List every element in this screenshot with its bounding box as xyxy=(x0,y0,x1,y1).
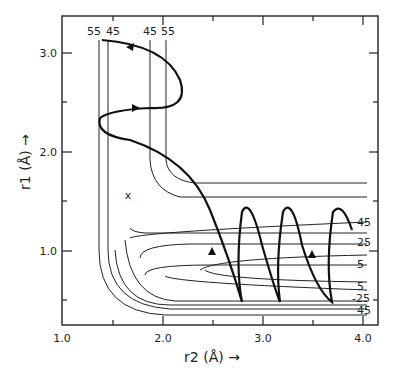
svg-text:1.0: 1.0 xyxy=(40,245,58,258)
svg-text:45: 45 xyxy=(357,304,371,317)
saddle-marker: x xyxy=(125,189,132,202)
svg-text:2.0: 2.0 xyxy=(40,146,58,159)
plot-frame xyxy=(62,16,378,325)
svg-text:45: 45 xyxy=(106,25,120,38)
x-axis-label: r2 (Å) → xyxy=(184,349,240,365)
svg-text:45: 45 xyxy=(143,25,157,38)
tick-labels: 1.0 2.0 3.0 4.0 1.0 2.0 3.0 xyxy=(40,47,372,345)
svg-text:2.0: 2.0 xyxy=(154,332,172,345)
svg-text:4.0: 4.0 xyxy=(354,332,372,345)
svg-text:55: 55 xyxy=(87,25,101,38)
svg-text:25: 25 xyxy=(357,236,371,249)
svg-text:55: 55 xyxy=(161,25,175,38)
svg-text:45: 45 xyxy=(357,216,371,229)
svg-text:3.0: 3.0 xyxy=(254,332,272,345)
svg-text:5: 5 xyxy=(357,258,364,271)
contour-labels-top: 55 45 45 55 xyxy=(87,25,175,38)
contour-labels-right: 45 25 5 5 -25 45 xyxy=(352,216,371,317)
svg-text:3.0: 3.0 xyxy=(40,47,58,60)
y-axis-label: r1 (Å) → xyxy=(17,134,33,190)
svg-text:1.0: 1.0 xyxy=(53,332,71,345)
contour-chart: 1.0 2.0 3.0 4.0 1.0 2.0 3.0 r2 (Å) → r1 … xyxy=(0,0,394,381)
